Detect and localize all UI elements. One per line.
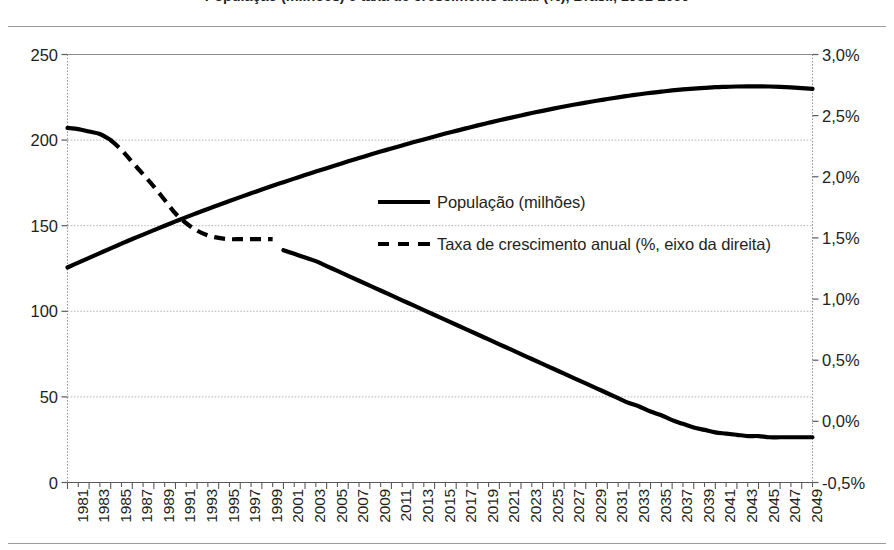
x-axis-tick-label: 2033 bbox=[635, 489, 653, 523]
x-axis-tick-label: 2007 bbox=[354, 489, 372, 523]
x-axis-tick-label: 2021 bbox=[505, 489, 523, 523]
x-axis-tick-label: 2013 bbox=[419, 489, 437, 523]
legend-item-taxa-crescimento: Taxa de crescimento anual (%, eixo da di… bbox=[378, 223, 818, 265]
x-axis-tick-label: 1983 bbox=[95, 489, 113, 523]
x-axis-tick-label: 1987 bbox=[138, 489, 156, 523]
x-axis-tick-label: 1995 bbox=[225, 489, 243, 523]
x-axis-tick-label: 1999 bbox=[268, 489, 286, 523]
chart-legend: População (milhões) Taxa de crescimento … bbox=[378, 181, 818, 265]
legend-dashed-line-icon bbox=[378, 237, 430, 251]
legend-item-label: Taxa de crescimento anual (%, eixo da di… bbox=[437, 235, 771, 254]
x-axis-tick-label: 2039 bbox=[700, 489, 718, 523]
x-axis-tick-label: 2003 bbox=[311, 489, 329, 523]
x-axis-tick-label: 2037 bbox=[678, 489, 696, 523]
x-axis-tick-label: 1993 bbox=[203, 489, 221, 523]
x-axis-tick-label: 2011 bbox=[397, 489, 415, 522]
x-axis-tick-label: 2049 bbox=[808, 489, 826, 523]
x-axis-tick-label: 2045 bbox=[765, 489, 783, 523]
x-axis-tick-label: 2027 bbox=[570, 489, 588, 523]
x-axis-tick-label: 1981 bbox=[74, 489, 92, 523]
legend-item-populacao: População (milhões) bbox=[378, 181, 818, 223]
legend-item-label: População (milhões) bbox=[437, 193, 586, 212]
x-axis-tick-label: 2041 bbox=[721, 489, 739, 523]
x-axis-tick-label: 2043 bbox=[743, 489, 761, 523]
x-axis-tick-label: 2019 bbox=[484, 489, 502, 523]
x-axis-labels: 1981198319851987198919911993199519971999… bbox=[0, 0, 894, 550]
x-axis-tick-label: 1991 bbox=[181, 489, 199, 523]
legend-solid-line-icon bbox=[378, 195, 430, 209]
x-axis-tick-label: 2035 bbox=[657, 489, 675, 523]
x-axis-tick-label: 2023 bbox=[527, 489, 545, 523]
x-axis-tick-label: 2029 bbox=[592, 489, 610, 523]
x-axis-tick-label: 2015 bbox=[441, 489, 459, 523]
x-axis-tick-label: 2005 bbox=[333, 489, 351, 523]
x-axis-tick-label: 1985 bbox=[117, 489, 135, 523]
x-axis-tick-label: 2009 bbox=[376, 489, 394, 523]
x-axis-tick-label: 2025 bbox=[549, 489, 567, 523]
x-axis-tick-label: 1997 bbox=[246, 489, 264, 523]
x-axis-tick-label: 2047 bbox=[786, 489, 804, 523]
x-axis-tick-label: 1989 bbox=[160, 489, 178, 523]
x-axis-tick-label: 2017 bbox=[462, 489, 480, 523]
x-axis-tick-label: 2031 bbox=[613, 489, 631, 523]
population-growth-chart: População (milhões) e taxa de cresciment… bbox=[0, 0, 894, 550]
x-axis-tick-label: 2001 bbox=[289, 489, 307, 523]
